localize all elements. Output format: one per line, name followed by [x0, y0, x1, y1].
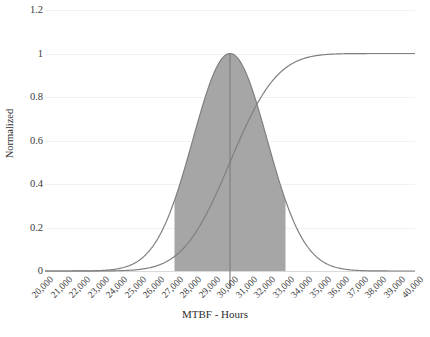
- x-axis: 20,00021,00022,00023,00024,00025,00026,0…: [45, 271, 425, 331]
- y-tick-label: 1: [3, 49, 43, 60]
- y-axis-title: Normalized: [4, 89, 15, 179]
- x-axis-title: MTBF - Hours: [0, 308, 430, 320]
- y-tick-label: 0.4: [3, 179, 43, 190]
- y-tick-label: 0.2: [3, 223, 43, 234]
- y-tick-label: 0: [3, 266, 43, 277]
- plot-area: [45, 10, 415, 271]
- chart-container: 00.20.40.60.811.2 Normalized 20,00021,00…: [0, 0, 430, 337]
- y-tick-label: 1.2: [3, 5, 43, 16]
- chart-curves: [45, 10, 415, 271]
